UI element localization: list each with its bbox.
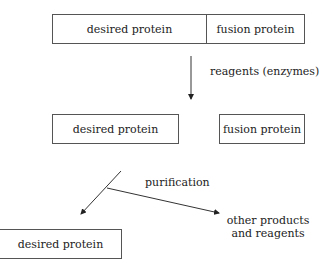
purified-protein-label: desired protein [18,238,103,251]
fusion-protein-segment: fusion protein [207,15,304,43]
desired-protein-label: desired protein [87,23,172,36]
other-products-line1: other products [226,214,310,227]
fusion-protein-label: fusion protein [217,23,295,36]
arrow-to-desired-protein [81,171,121,214]
desired-protein-segment: desired protein [53,15,207,43]
purified-protein-box: desired protein [0,229,122,259]
desired-protein-label: desired protein [73,123,158,136]
other-products-line2: and reagents [226,227,310,240]
reagents-label: reagents (enzymes) [210,65,319,78]
fusion-protein-box: fusion protein [219,114,305,144]
purification-label: purification [145,176,210,189]
other-products-label: other products and reagents [226,214,310,240]
arrow-to-other-products [107,188,219,213]
fusion-protein-label: fusion protein [223,123,301,136]
desired-protein-box: desired protein [52,114,179,144]
fusion-construct-box: desired protein fusion protein [52,14,305,44]
